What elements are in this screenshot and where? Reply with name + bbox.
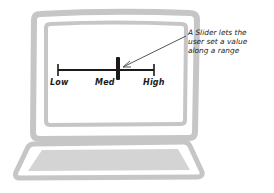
slider-thumb[interactable]	[116, 57, 120, 80]
slider-label-high: High	[143, 78, 165, 87]
laptop-illustration: Low Med High A Slider lets the user set …	[0, 0, 274, 193]
slider-label-low: Low	[50, 78, 69, 87]
slider-label-med: Med	[95, 78, 115, 87]
annotation-line-3: along a range	[188, 46, 274, 55]
keyboard-area	[28, 149, 190, 171]
annotation-text: A Slider lets the user set a value along…	[188, 28, 274, 55]
annotation-line-1: A Slider lets the	[188, 28, 274, 37]
annotation-line-2: user set a value	[188, 37, 274, 46]
